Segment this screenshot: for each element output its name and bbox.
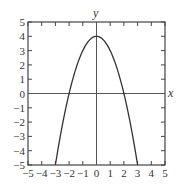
y-tick-label: 3 [20, 45, 26, 57]
x-tick-label: −3 [50, 167, 62, 179]
x-tick-label: 1 [107, 167, 113, 179]
y-tick-label: 5 [20, 16, 26, 28]
y-tick-label: −2 [13, 116, 25, 128]
tick-labels: −5−4−3−2−1012345−5−4−3−2−1012345 [13, 16, 168, 179]
x-tick-label: −2 [63, 167, 75, 179]
y-tick-label: −5 [13, 159, 25, 171]
y-tick-label: 0 [20, 88, 26, 100]
y-tick-label: −1 [13, 102, 25, 114]
x-tick-label: 5 [162, 167, 168, 179]
y-axis-label: y [92, 6, 99, 20]
x-tick-label: 2 [121, 167, 127, 179]
y-tick-label: 2 [20, 59, 26, 71]
chart-plot: −5−4−3−2−1012345−5−4−3−2−1012345 x y [0, 0, 180, 187]
x-tick-label: −1 [77, 167, 89, 179]
y-tick-label: 4 [20, 30, 26, 42]
y-tick-label: −3 [13, 130, 25, 142]
x-axis-label: x [167, 86, 174, 100]
x-tick-label: −4 [36, 167, 48, 179]
y-tick-label: −4 [13, 145, 25, 157]
y-tick-label: 1 [20, 73, 26, 85]
x-tick-label: 0 [94, 167, 100, 179]
coordinate-axes [28, 22, 165, 165]
x-tick-label: 3 [135, 167, 141, 179]
x-tick-label: 4 [149, 167, 155, 179]
